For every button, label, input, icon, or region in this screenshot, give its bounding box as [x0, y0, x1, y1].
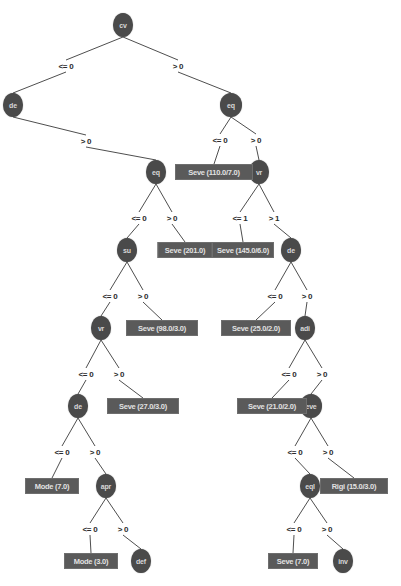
tree-node-eql[interactable]: eql: [300, 474, 320, 498]
tree-leaf[interactable]: Seve (98.0/3.0): [126, 320, 198, 336]
edge-label: <= 0: [287, 448, 302, 457]
tree-edge-segment: [123, 535, 141, 549]
edge-label: <= 0: [267, 292, 282, 301]
edge-label: > 0: [251, 136, 262, 145]
tree-node-su[interactable]: su: [117, 238, 137, 262]
tree-edge-segment: [101, 340, 119, 368]
tree-edge-segment: [13, 117, 86, 135]
tree-edge-segment: [62, 418, 78, 446]
edge-layer: [0, 0, 401, 586]
tree-edge-segment: [143, 302, 162, 320]
tree-edge-segment: [86, 147, 156, 160]
tree-edge-segment: [310, 498, 327, 523]
edge-label: > 0: [167, 214, 178, 223]
edge-label: > 0: [302, 292, 313, 301]
tree-edge-segment: [311, 380, 322, 394]
tree-leaf[interactable]: Mode (7.0): [25, 478, 79, 494]
tree-leaf[interactable]: Rigi (15.0/3.0): [320, 478, 388, 494]
tree-edge-segment: [295, 418, 311, 446]
tree-edge-segment: [78, 418, 95, 446]
tree-edge-segment: [231, 117, 256, 134]
edge-label: > 0: [118, 525, 129, 534]
tree-edge-segment: [172, 224, 185, 242]
tree-edge-segment: [156, 184, 172, 212]
tree-edge-segment: [294, 498, 310, 523]
tree-node-de[interactable]: de: [68, 394, 88, 418]
tree-leaf[interactable]: Seve (27.0/3.0): [107, 398, 179, 414]
tree-edge-segment: [256, 302, 275, 320]
tree-edge-segment: [127, 262, 143, 290]
tree-edge-segment: [305, 340, 322, 368]
tree-edge-segment: [256, 146, 259, 160]
tree-edge-segment: [240, 184, 259, 212]
tree-edge-segment: [52, 458, 62, 478]
decision-tree-diagram: <= 0> 0> 0<= 0> 0<= 0> 0<= 1> 1<= 0> 0<=…: [0, 0, 401, 586]
edge-label: <= 0: [281, 370, 296, 379]
tree-node-eq[interactable]: eq: [146, 160, 166, 184]
tree-leaf[interactable]: Seve (21.0/2.0): [237, 398, 307, 414]
tree-edge-segment: [220, 117, 231, 134]
edge-label: > 0: [114, 370, 125, 379]
tree-edge-segment: [110, 262, 127, 290]
tree-node-cv[interactable]: cv: [113, 13, 133, 37]
edge-label: <= 1: [232, 214, 247, 223]
edge-label: <= 0: [102, 292, 117, 301]
tree-edge-segment: [139, 184, 156, 212]
edge-label: > 0: [138, 292, 149, 301]
tree-edge-segment: [86, 340, 101, 368]
tree-node-vr[interactable]: vr: [91, 316, 111, 340]
edge-label: > 1: [269, 214, 280, 223]
tree-edge-segment: [295, 458, 310, 474]
tree-node-de[interactable]: de: [281, 238, 301, 262]
tree-edge-segment: [13, 72, 66, 93]
tree-edge-segment: [78, 380, 86, 394]
tree-edge-segment: [291, 262, 307, 290]
tree-edge-segment: [127, 224, 139, 238]
tree-edge-segment: [101, 302, 110, 316]
tree-node-inv[interactable]: inv: [333, 549, 353, 573]
edge-label: <= 0: [82, 525, 97, 534]
tree-node-def[interactable]: def: [131, 549, 151, 573]
tree-leaf[interactable]: Seve (145.0/6.0): [212, 242, 274, 258]
tree-edge-segment: [305, 302, 307, 316]
edge-label: > 0: [81, 137, 92, 146]
tree-edge-segment: [275, 262, 291, 290]
tree-edge-segment: [293, 535, 294, 553]
tree-leaf[interactable]: Seve (110.0/7.0): [175, 164, 253, 180]
tree-edge-segment: [328, 458, 354, 478]
edge-label: <= 0: [131, 214, 146, 223]
edge-label: > 0: [317, 370, 328, 379]
tree-edge-segment: [119, 380, 143, 398]
tree-edge-segment: [90, 498, 106, 523]
tree-edge-segment: [90, 535, 91, 553]
edge-label: > 0: [323, 448, 334, 457]
edge-label: > 0: [322, 525, 333, 534]
tree-leaf[interactable]: Seve (201.0): [158, 242, 213, 258]
tree-edge-segment: [214, 146, 220, 164]
tree-edge-segment: [259, 184, 274, 212]
tree-leaf[interactable]: Seve (25.0/2.0): [221, 320, 291, 336]
tree-node-de[interactable]: de: [3, 93, 23, 117]
tree-edge-segment: [289, 340, 305, 368]
tree-edge-segment: [95, 458, 106, 474]
tree-edge-segment: [327, 535, 343, 549]
edge-label: <= 0: [212, 136, 227, 145]
tree-edge-segment: [274, 224, 291, 238]
tree-edge-segment: [66, 37, 123, 60]
tree-node-adi[interactable]: adi: [295, 316, 315, 340]
tree-edge-segment: [106, 498, 123, 523]
tree-node-apr[interactable]: apr: [96, 474, 116, 498]
edge-label: <= 0: [78, 370, 93, 379]
tree-edge-segment: [178, 72, 231, 93]
edge-label: <= 0: [54, 448, 69, 457]
tree-edge-segment: [311, 418, 328, 446]
edge-label: > 0: [173, 62, 184, 71]
edge-label: <= 0: [286, 525, 301, 534]
tree-edge-segment: [272, 380, 289, 398]
edge-label: <= 0: [58, 62, 73, 71]
tree-edge-segment: [123, 37, 178, 60]
tree-leaf[interactable]: Mode (3.0): [64, 553, 118, 569]
tree-edge-segment: [240, 224, 243, 242]
tree-node-eq[interactable]: eq: [220, 93, 242, 117]
tree-leaf[interactable]: Seve (7.0): [268, 553, 318, 569]
